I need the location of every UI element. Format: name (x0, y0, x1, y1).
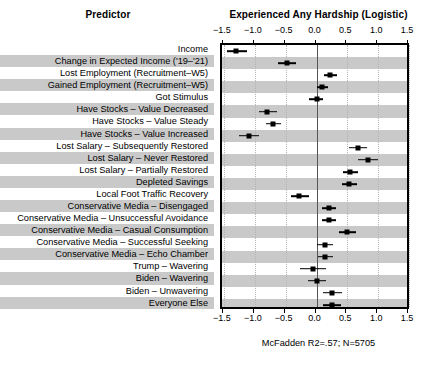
gridline (224, 45, 226, 307)
point-estimate-marker (311, 266, 316, 271)
x-axis-tick-label-top: −1.0 (244, 25, 262, 35)
point-estimate-marker (320, 85, 325, 90)
predictor-label-row: Have Stocks – Value Decreased (0, 103, 214, 115)
predictor-label-row: Income (0, 43, 214, 55)
predictor-label-row: Have Stocks – Value Steady (0, 115, 214, 127)
predictor-label-row: Trump – Wavering (0, 260, 214, 272)
x-axis-tick-label: 1.0 (370, 313, 383, 323)
predictor-label: Income (178, 43, 208, 55)
predictor-label-row: Got Stimulus (0, 91, 214, 103)
x-axis-bottom: −1.5−1.0−0.50.00.51.01.5 (220, 309, 409, 325)
predictor-label: Biden – Wavering (136, 272, 208, 284)
point-estimate-marker (355, 145, 360, 150)
gridline (347, 45, 349, 307)
predictor-label-row: Lost Employment (Recruitment–W5) (0, 67, 214, 79)
predictor-label: Have Stocks – Value Decreased (76, 103, 208, 115)
predictor-label: Trump – Wavering (133, 260, 208, 272)
predictor-label-row: Conservative Media – Unsuccessful Avoida… (0, 212, 214, 224)
predictor-label-row: Conservative Media – Casual Consumption (0, 224, 214, 236)
point-estimate-marker (326, 206, 331, 211)
predictor-label: Have Stocks – Value Increased (80, 128, 208, 140)
predictor-label: Conservative Media – Echo Chamber (55, 248, 208, 260)
gridline (409, 45, 411, 307)
predictor-label-row: Local Foot Traffic Recovery (0, 188, 214, 200)
x-axis-tick-label: 1.5 (401, 313, 414, 323)
point-estimate-marker (284, 61, 289, 66)
gridline (378, 45, 380, 307)
point-estimate-marker (314, 97, 319, 102)
predictor-label: Lost Salary – Partially Restored (79, 164, 208, 176)
predictor-label: Conservative Media – Successful Seeking (36, 236, 208, 248)
predictor-label-row: Depleted Savings (0, 176, 214, 188)
predictor-label: Everyone Else (149, 297, 208, 309)
predictor-label-row: Everyone Else (0, 297, 214, 309)
x-axis-tick-label: 0.0 (308, 313, 321, 323)
x-axis-tick-label: −1.5 (213, 313, 231, 323)
forest-plot-figure: Predictor Experienced Any Hardship (Logi… (0, 0, 429, 370)
point-estimate-marker (328, 73, 333, 78)
predictor-label: Conservative Media – Disengaged (68, 200, 208, 212)
point-estimate-marker (365, 157, 370, 162)
point-estimate-marker (345, 230, 350, 235)
x-axis-tick-label-top: 1.0 (370, 25, 383, 35)
point-estimate-marker (233, 49, 238, 54)
predictor-label: Conservative Media – Unsuccessful Avoida… (17, 212, 208, 224)
predictor-label: Got Stimulus (155, 91, 208, 103)
x-axis-tick-label: 0.5 (339, 313, 352, 323)
predictor-label: Conservative Media – Casual Consumption (31, 224, 208, 236)
point-estimate-marker (348, 169, 353, 174)
x-axis-tick-label-top: −1.5 (213, 25, 231, 35)
predictor-label: Lost Salary – Never Restored (87, 152, 208, 164)
predictor-label-row: Conservative Media – Disengaged (0, 200, 214, 212)
x-axis-tick-label-top: 0.5 (339, 25, 352, 35)
x-axis-tick-label-top: 1.5 (401, 25, 414, 35)
predictor-label-row: Gained Employment (Recruitment–W5) (0, 79, 214, 91)
x-axis-tick-label: −0.5 (275, 313, 293, 323)
point-estimate-marker (329, 290, 334, 295)
point-estimate-marker (314, 278, 319, 283)
predictor-label-row: Lost Salary – Partially Restored (0, 164, 214, 176)
predictor-label-row: Have Stocks – Value Increased (0, 128, 214, 140)
predictor-label: Lost Salary – Subsequently Restored (56, 140, 208, 152)
predictor-label: Gained Employment (Recruitment–W5) (48, 79, 208, 91)
point-estimate-marker (297, 194, 302, 199)
predictor-label-column: IncomeChange in Expected Income ('19–'21… (0, 43, 214, 309)
point-estimate-marker (329, 302, 334, 307)
predictor-label-row: Lost Salary – Subsequently Restored (0, 140, 214, 152)
predictor-label-row: Conservative Media – Echo Chamber (0, 248, 214, 260)
gridline (255, 45, 257, 307)
predictor-label-row: Lost Salary – Never Restored (0, 152, 214, 164)
predictor-label-row: Biden – Wavering (0, 272, 214, 284)
x-axis-tick-labels-top: −1.5−1.0−0.50.00.51.01.5 (220, 25, 409, 38)
point-estimate-marker (347, 182, 352, 187)
model-fit-footnote: McFadden R2=.57; N=5705 (216, 338, 421, 348)
predictor-label-row: Change in Expected Income ('19–'21) (0, 55, 214, 67)
x-axis-tick-label: −1.0 (244, 313, 262, 323)
outcome-column-header: Experienced Any Hardship (Logistic) (216, 9, 421, 20)
predictor-label-row: Biden – Unwavering (0, 285, 214, 297)
x-axis-tick-label-top: −0.5 (275, 25, 293, 35)
predictor-label: Biden – Unwavering (126, 285, 208, 297)
predictor-label: Local Foot Traffic Recovery (96, 188, 208, 200)
predictor-label-row: Conservative Media – Successful Seeking (0, 236, 214, 248)
point-estimate-marker (271, 121, 276, 126)
predictor-column-header: Predictor (0, 9, 216, 20)
point-estimate-marker (265, 109, 270, 114)
point-estimate-marker (246, 133, 251, 138)
plot-panel (220, 43, 409, 309)
predictor-label: Have Stocks – Value Steady (92, 115, 208, 127)
point-estimate-marker (326, 218, 331, 223)
predictor-label: Lost Employment (Recruitment–W5) (60, 67, 208, 79)
point-estimate-marker (322, 254, 327, 259)
x-axis-tick-label-top: 0.0 (308, 25, 321, 35)
point-estimate-marker (322, 242, 327, 247)
gridline (286, 45, 288, 307)
predictor-label: Change in Expected Income ('19–'21) (55, 55, 208, 67)
predictor-label: Depleted Savings (136, 176, 208, 188)
